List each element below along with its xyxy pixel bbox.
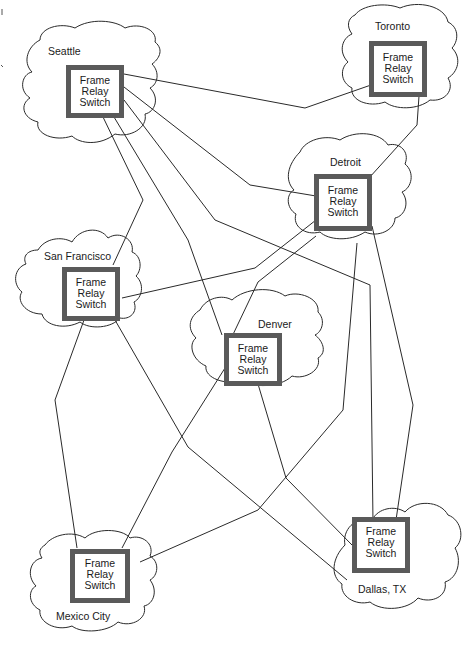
city-label-mexico-city: Mexico City — [56, 610, 111, 622]
city-label-detroit: Detroit — [330, 156, 361, 168]
city-label-seattle: Seattle — [48, 45, 81, 57]
svg-text:Switch: Switch — [85, 579, 116, 591]
link-detroit-dallas — [372, 226, 413, 520]
node-dallas: Dallas, TX Frame Relay Switch — [352, 517, 410, 595]
svg-text:Switch: Switch — [76, 298, 107, 310]
link-denver-mexico — [122, 368, 225, 548]
frame-relay-switch-denver: Frame Relay Switch — [224, 333, 282, 386]
frame-relay-switch-detroit: Frame Relay Switch — [314, 174, 372, 231]
frame-relay-switch-seattle: Frame Relay Switch — [66, 65, 124, 118]
frame-relay-switch-toronto: Frame Relay Switch — [369, 41, 427, 97]
link-denver-dallas — [258, 384, 352, 545]
city-label-toronto: Toronto — [375, 20, 410, 32]
edge-mark — [1, 65, 3, 67]
frame-relay-switch-san-francisco: Frame Relay Switch — [62, 267, 120, 321]
svg-text:Switch: Switch — [383, 73, 414, 85]
link-sf-mexico — [55, 320, 84, 548]
city-label-dallas: Dallas, TX — [358, 583, 406, 595]
city-label-san-francisco: San Francisco — [44, 250, 111, 262]
frame-relay-switch-mexico-city: Frame Relay Switch — [70, 549, 130, 603]
frame-relay-network-diagram: Seattle Frame Relay Switch Toronto Frame… — [0, 0, 467, 647]
link-seattle-toronto — [124, 74, 371, 108]
svg-text:Switch: Switch — [80, 96, 111, 108]
svg-text:Switch: Switch — [328, 206, 359, 218]
city-label-denver: Denver — [258, 318, 292, 330]
svg-text:Switch: Switch — [366, 547, 397, 559]
svg-text:Switch: Switch — [238, 364, 269, 376]
frame-relay-switch-dallas: Frame Relay Switch — [352, 517, 410, 573]
